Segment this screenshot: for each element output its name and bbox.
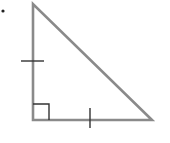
- right-angle-marker: [33, 104, 49, 120]
- triangle-diagram: [0, 0, 170, 143]
- list-bullet: [1, 9, 4, 12]
- right-triangle: [33, 4, 152, 120]
